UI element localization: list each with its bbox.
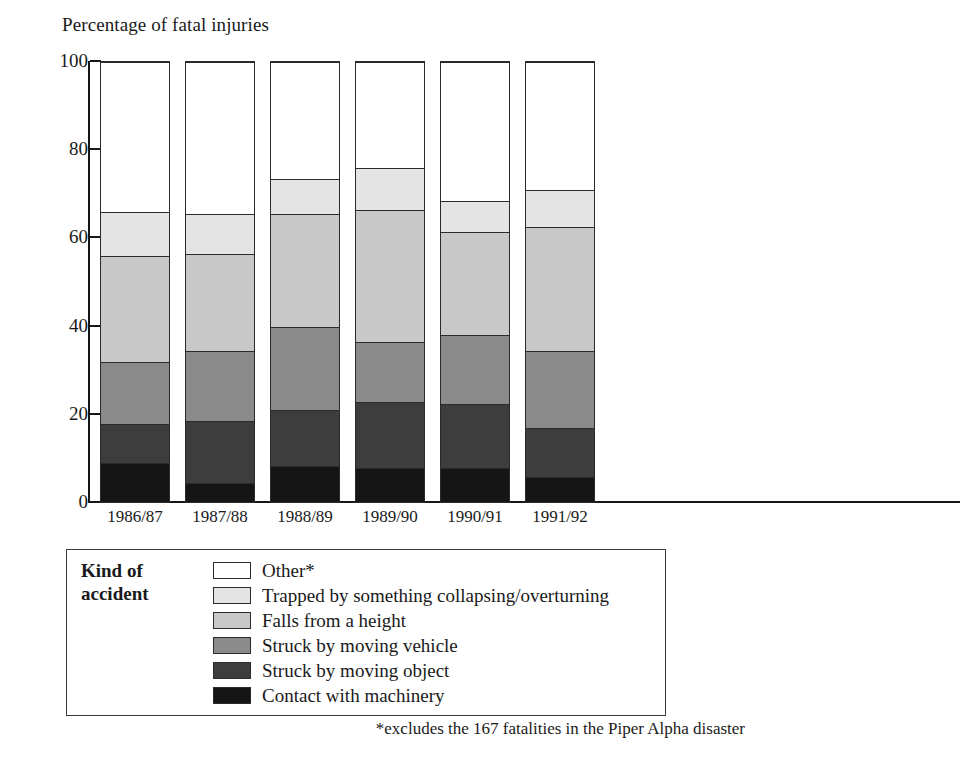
stacked-bar-1990-91[interactable] [440, 61, 510, 502]
y-axis-tick-label: 40 [42, 316, 88, 335]
legend-item[interactable]: Other* [213, 558, 653, 583]
bar-segment[interactable] [185, 421, 255, 483]
legend-swatch [213, 587, 251, 604]
legend-item[interactable]: Struck by moving vehicle [213, 633, 653, 658]
legend-title: Kind of accident [81, 559, 221, 605]
bar-segment[interactable] [355, 210, 425, 342]
legend-items: Other*Trapped by something collapsing/ov… [213, 558, 653, 708]
bar-segment[interactable] [355, 342, 425, 402]
bar-segment[interactable] [355, 168, 425, 210]
y-axis-tick-label: 100 [42, 51, 88, 70]
legend-title-line-1: Kind of [81, 560, 143, 581]
bar-segment[interactable] [270, 214, 340, 326]
bar-segment[interactable] [270, 466, 340, 503]
legend-item[interactable]: Falls from a height [213, 608, 653, 633]
y-axis-line [88, 61, 90, 503]
bar-segment[interactable] [440, 335, 510, 403]
y-axis-tick-label: 60 [42, 227, 88, 246]
stacked-bar-1986-87[interactable] [100, 61, 170, 502]
legend-item-label: Struck by moving object [262, 660, 449, 681]
bar-segment[interactable] [525, 428, 595, 477]
bar-segment[interactable] [100, 62, 170, 212]
x-axis-label-1991-92: 1991/92 [505, 508, 615, 526]
legend-item-label: Struck by moving vehicle [262, 635, 458, 656]
legend-swatch [213, 687, 251, 704]
stacked-bar-1988-89[interactable] [270, 61, 340, 502]
bar-segment[interactable] [355, 402, 425, 468]
bar-segment[interactable] [270, 62, 340, 179]
legend-item-label: Trapped by something collapsing/overturn… [262, 585, 609, 606]
bar-segment[interactable] [100, 424, 170, 464]
bar-segment[interactable] [185, 351, 255, 422]
bar-segment[interactable] [100, 256, 170, 362]
bar-segment[interactable] [270, 327, 340, 411]
bar-segment[interactable] [185, 254, 255, 351]
bar-segment[interactable] [270, 410, 340, 465]
bar-segment[interactable] [100, 212, 170, 256]
bar-segment[interactable] [525, 351, 595, 428]
chart-plot-area: 100806040200 1986/871987/881988/891989/9… [0, 0, 977, 540]
legend-swatch [213, 612, 251, 629]
stacked-bar-1991-92[interactable] [525, 61, 595, 502]
bar-segment[interactable] [440, 201, 510, 232]
legend-swatch [213, 637, 251, 654]
y-axis-tick-label: 20 [42, 404, 88, 423]
legend-item[interactable]: Struck by moving object [213, 658, 653, 683]
legend-item[interactable]: Trapped by something collapsing/overturn… [213, 583, 653, 608]
legend-swatch [213, 662, 251, 679]
bar-segment[interactable] [185, 214, 255, 254]
legend-item[interactable]: Contact with machinery [213, 683, 653, 708]
bar-segment[interactable] [525, 190, 595, 227]
bar-segment[interactable] [355, 62, 425, 168]
bar-segment[interactable] [525, 227, 595, 350]
bar-segment[interactable] [270, 179, 340, 214]
legend: Kind of accident Other*Trapped by someth… [66, 549, 666, 716]
bar-segment[interactable] [185, 62, 255, 214]
stacked-bar-1987-88[interactable] [185, 61, 255, 502]
stacked-bar-1989-90[interactable] [355, 61, 425, 502]
legend-swatch [213, 562, 251, 579]
bar-segment[interactable] [440, 468, 510, 503]
bar-segment[interactable] [440, 232, 510, 336]
bar-segment[interactable] [525, 62, 595, 190]
bar-segment[interactable] [440, 404, 510, 468]
bar-segment[interactable] [100, 362, 170, 424]
bar-segment[interactable] [525, 477, 595, 503]
y-axis-tick-label: 80 [42, 139, 88, 158]
bar-segment[interactable] [185, 483, 255, 503]
bar-segment[interactable] [440, 62, 510, 201]
legend-item-label: Other* [262, 560, 315, 581]
legend-item-label: Contact with machinery [262, 685, 445, 706]
legend-title-line-2: accident [81, 583, 149, 604]
chart-footnote: *excludes the 167 fatalities in the Pipe… [0, 719, 745, 738]
legend-item-label: Falls from a height [262, 610, 406, 631]
bar-segment[interactable] [100, 463, 170, 503]
bar-segment[interactable] [355, 468, 425, 503]
